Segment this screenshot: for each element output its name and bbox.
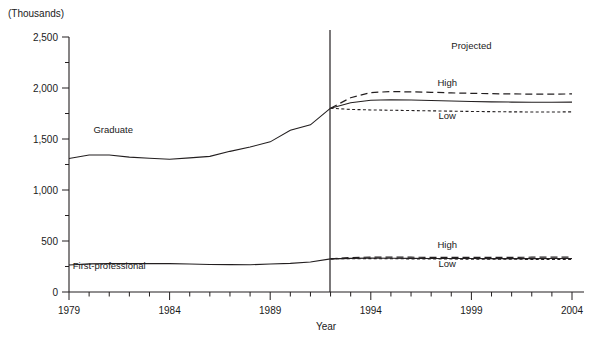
x-tick-label: 1979 [58,305,81,316]
axes-group: 05001,0001,5002,0002,500 197919841989199… [33,32,584,316]
y-tick-labels: 05001,0001,5002,0002,500 [33,32,58,298]
y-tick-label: 0 [52,287,58,298]
x-tick-label: 1994 [360,305,383,316]
data-series-group [69,92,572,266]
x-tick-label: 1984 [158,305,181,316]
low-label-first-professional: Low [439,258,457,269]
y-tick-marks [62,37,69,292]
y-tick-label: 2,000 [33,83,58,94]
high-label-graduate: High [437,77,457,88]
x-tick-label: 1989 [259,305,282,316]
chart-figure: (Thousands) 05001,0001,5002,0002,500 197… [0,0,592,339]
series-line [331,100,572,108]
x-axis-title: Year [316,321,337,332]
x-tick-labels: 197919841989199419992004 [58,305,584,316]
high-label-first-professional: High [437,239,457,250]
first-professional-label: First-professional [73,260,146,271]
x-tick-marks [69,292,572,300]
y-tick-label: 1,000 [33,185,58,196]
low-label-graduate: Low [439,110,457,121]
series-line [331,92,572,109]
unit-note: (Thousands) [8,8,64,19]
x-tick-label: 1999 [460,305,483,316]
annotations-group: ProjectedGraduateFirst-professionalHighL… [73,40,492,270]
y-tick-label: 1,500 [33,134,58,145]
graduate-label: Graduate [93,124,133,135]
projected-label: Projected [451,40,491,51]
chart-canvas: (Thousands) 05001,0001,5002,0002,500 197… [0,0,592,339]
y-tick-label: 500 [41,236,58,247]
y-tick-label: 2,500 [33,32,58,43]
x-tick-label: 2004 [561,305,584,316]
